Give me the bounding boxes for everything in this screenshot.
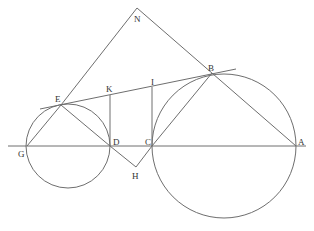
label-b: B — [208, 63, 214, 73]
label-i: I — [151, 77, 154, 87]
segment-ne — [61, 8, 137, 105]
tangent-line-eb — [40, 69, 236, 109]
label-h: H — [132, 171, 139, 181]
segment-ed — [61, 105, 110, 146]
label-a: A — [298, 137, 305, 147]
segment-dh — [110, 146, 136, 167]
label-n: N — [134, 14, 141, 24]
label-k: K — [106, 84, 113, 94]
segment-hc — [136, 146, 152, 167]
segment-na — [137, 8, 296, 146]
geometry-diagram: N B E K I D C A G H — [0, 0, 314, 231]
label-c: C — [145, 137, 151, 147]
label-d: D — [113, 137, 120, 147]
label-e: E — [55, 94, 61, 104]
label-g: G — [18, 149, 25, 159]
